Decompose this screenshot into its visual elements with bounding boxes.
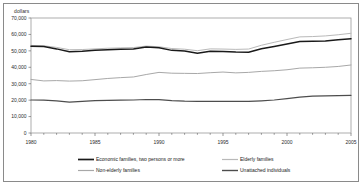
y-tick-label: 20,000 — [11, 97, 27, 103]
chart-figure: dollars 70,00060,00050,00040,00030,00020… — [0, 0, 362, 186]
y-axis-ticks: 70,00060,00050,00040,00030,00020,00010,0… — [11, 15, 31, 136]
x-tick-label: 2000 — [281, 139, 292, 145]
legend-label: Unattached individuals — [240, 167, 291, 173]
line-chart-svg: 70,00060,00050,00040,00030,00020,00010,0… — [0, 0, 362, 186]
series-line — [31, 39, 351, 53]
y-tick-label: 70,000 — [11, 15, 27, 21]
series-line — [31, 65, 351, 81]
chart-legend: Economic families, two persons or moreEl… — [78, 156, 291, 173]
x-tick-label: 1995 — [217, 139, 228, 145]
y-tick-label: 10,000 — [11, 113, 27, 119]
y-tick-label: 0 — [24, 130, 27, 136]
legend-label: Non-elderly families — [96, 167, 140, 173]
x-axis-ticks: 198019851990199520002005 — [25, 133, 356, 145]
legend-label: Economic families, two persons or more — [96, 156, 185, 162]
legend-label: Elderly families — [240, 156, 274, 162]
y-tick-label: 50,000 — [11, 48, 27, 54]
x-tick-label: 2005 — [345, 139, 356, 145]
plot-frame — [31, 18, 351, 133]
x-tick-label: 1985 — [89, 139, 100, 145]
plot-area: 70,00060,00050,00040,00030,00020,00010,0… — [0, 0, 362, 186]
x-tick-label: 1990 — [153, 139, 164, 145]
data-series-group — [31, 33, 351, 102]
y-tick-label: 30,000 — [11, 81, 27, 87]
x-tick-label: 1980 — [25, 139, 36, 145]
y-tick-label: 60,000 — [11, 31, 27, 37]
series-line — [31, 95, 351, 102]
y-tick-label: 40,000 — [11, 64, 27, 70]
